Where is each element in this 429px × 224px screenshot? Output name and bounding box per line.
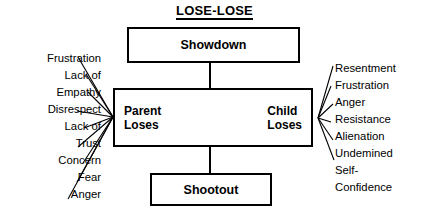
diagram-title-text: LOSE-LOSE	[176, 3, 253, 20]
parent-feeling-item-2: Empathy	[0, 84, 101, 101]
child-loses-line2: Loses	[267, 118, 302, 132]
parent-feeling-item-3: Disrespect	[0, 101, 101, 118]
child-feeling-item-3: Resistance	[335, 111, 429, 128]
diagram-title: LOSE-LOSE	[0, 3, 429, 18]
child-feeling-item-7: Confidence	[335, 179, 429, 196]
right-ray-1	[318, 66, 333, 118]
parent-feeling-item-4: Lack of	[0, 118, 101, 135]
parent-feeling-item-0: Frustration	[0, 50, 101, 67]
parent-feeling-item-5: Trust	[0, 135, 101, 152]
right-ray-2	[318, 86, 331, 118]
child-feeling-item-6: Self-	[335, 162, 429, 179]
child-feeling-item-0: Resentment	[335, 60, 429, 77]
child-feeling-item-2: Anger	[335, 94, 429, 111]
diagram-canvas: LOSE-LOSE Showdown Parent Loses Child Lo…	[0, 0, 429, 224]
parent-feeling-item-6: Concern	[0, 152, 101, 169]
child-feelings-list: ResentmentFrustrationAngerResistanceAlie…	[335, 60, 429, 196]
shootout-box: Shootout	[150, 173, 272, 206]
center-box: Parent Loses Child Loses	[113, 88, 313, 147]
child-feeling-item-1: Frustration	[335, 77, 429, 94]
child-loses-line1: Child	[267, 104, 302, 118]
shootout-box-label: Shootout	[184, 183, 239, 197]
showdown-box: Showdown	[127, 27, 300, 63]
right-ray-6	[318, 118, 334, 160]
right-ray-group	[318, 66, 334, 160]
child-loses-label: Child Loses	[267, 104, 302, 132]
parent-feelings-list: FrustrationLack ofEmpathyDisrespectLack …	[0, 50, 101, 203]
parent-feeling-item-8: Anger	[0, 186, 101, 203]
parent-loses-line1: Parent	[124, 104, 161, 118]
parent-feeling-item-7: Fear	[0, 169, 101, 186]
parent-feeling-item-1: Lack of	[0, 67, 101, 84]
child-feeling-item-4: Alienation	[335, 128, 429, 145]
parent-loses-label: Parent Loses	[124, 104, 161, 132]
child-feeling-item-5: Undemined	[335, 145, 429, 162]
parent-loses-line2: Loses	[124, 118, 161, 132]
showdown-box-label: Showdown	[181, 38, 247, 52]
